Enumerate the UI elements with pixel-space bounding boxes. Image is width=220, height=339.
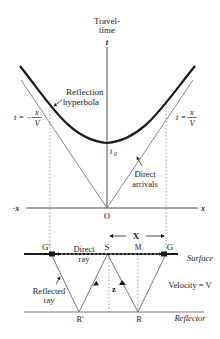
traveltime-plot: Travel- time t Reflection hyperbola t = … [13, 16, 205, 252]
ray-geometry: X G' S M G R' R Direct ray z Reflected [24, 231, 213, 324]
equation-right-numerator: x [189, 107, 194, 117]
direct-ray-label: Direct [73, 244, 95, 254]
reflector-label: Reflector [173, 313, 206, 323]
ray-arrowhead-down-right [119, 280, 126, 285]
reflected-ray-pointer-arrow [56, 277, 60, 284]
offset-x-label: X [133, 231, 140, 241]
direct-arrivals-label-2: arrivals [132, 179, 158, 189]
point-g-prime-label: G' [42, 242, 50, 252]
direct-ray-label-2: ray [79, 254, 91, 264]
point-s-label: S [104, 242, 109, 252]
velocity-label: Velocity = V [168, 280, 212, 290]
t0-subscript: 0 [114, 151, 117, 157]
equation-right-prefix: t = [176, 112, 186, 122]
origin-label: O [104, 211, 111, 221]
t-axis-label: t [106, 37, 109, 47]
direct-arrivals-pointer-arrow [137, 157, 142, 166]
depth-z-label: z [112, 284, 116, 294]
direct-arrivals-label: Direct [134, 169, 156, 179]
point-m-label: M [135, 243, 142, 252]
ray-r-to-g [138, 256, 165, 312]
equation-left-prefix: t = − [14, 112, 32, 122]
receiver-g-prime-marker [49, 252, 55, 257]
receiver-g-marker [161, 252, 167, 257]
x-neg-label: -x [13, 204, 20, 213]
point-g-label: G [167, 242, 174, 252]
surface-label: Surface [187, 253, 213, 263]
hyperbola-pointer-arrow [54, 100, 62, 106]
reflected-ray-label-2: ray [44, 295, 56, 305]
x-pos-label: x [200, 204, 205, 213]
travel-time-title-2: time [99, 25, 115, 35]
reflection-hyperbola-label-2: hyperbola [63, 97, 99, 107]
point-r-prime-label: R' [76, 314, 84, 324]
point-r-label: R [136, 314, 142, 324]
seismic-reflection-diagram: Travel- time t Reflection hyperbola t = … [0, 0, 220, 339]
reflection-hyperbola-label: Reflection [66, 87, 104, 97]
t0-label: t [110, 146, 113, 156]
reflection-hyperbola [20, 66, 195, 143]
equation-left-denominator: V [34, 118, 41, 128]
equation-right-denominator: V [189, 118, 196, 128]
equation-left-numerator: x [34, 107, 39, 117]
